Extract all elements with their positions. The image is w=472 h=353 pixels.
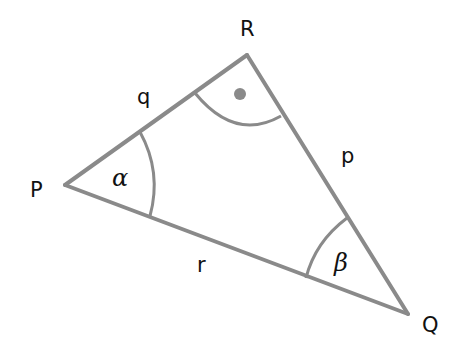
side-q-line: [65, 55, 247, 185]
angle-label-alpha: α: [112, 164, 128, 192]
right-angle-dot-icon: [234, 88, 246, 100]
side-label-q: q: [137, 85, 150, 109]
triangle-diagram: R P Q q p r α β: [0, 0, 472, 353]
angle-label-beta: β: [333, 249, 348, 277]
side-label-r: r: [197, 253, 206, 277]
vertex-label-p: P: [30, 178, 43, 202]
vertex-label-r: R: [240, 17, 255, 41]
angle-alpha-arc: [140, 132, 154, 216]
side-p-line: [247, 55, 408, 314]
vertex-label-q: Q: [422, 313, 439, 337]
side-r-line: [65, 185, 408, 314]
side-label-p: p: [341, 144, 354, 168]
